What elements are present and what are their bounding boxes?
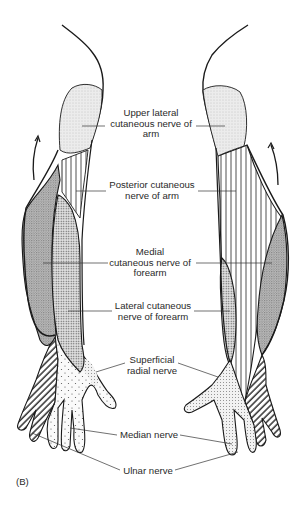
label-posterior-cutaneous-nerve: Posterior cutaneous nerve of arm [109, 180, 194, 201]
nerve-diagram: Upper lateral cutaneous nerve of arm Pos… [0, 0, 299, 511]
left-limb [18, 25, 116, 453]
label-lateral-cutaneous-nerve: Lateral cutaneous nerve of forearm [115, 301, 191, 322]
right-arrow-icon [271, 145, 278, 185]
left-arrow-icon [33, 138, 38, 180]
right-limb [184, 25, 288, 455]
label-superficial-radial-nerve: Superficial radial nerve [127, 355, 177, 376]
label-upper-lateral-cutaneous-nerve: Upper lateral cutaneous nerve of arm [110, 108, 192, 140]
right-upper-lateral-region [203, 86, 247, 156]
panel-label: (B) [16, 476, 29, 487]
label-ulnar-nerve: Ulnar nerve [123, 466, 173, 477]
label-median-nerve: Median nerve [120, 430, 178, 441]
label-medial-cutaneous-nerve: Medial cutaneous nerve of forearm [109, 247, 191, 279]
left-upper-lateral-region [59, 84, 102, 153]
